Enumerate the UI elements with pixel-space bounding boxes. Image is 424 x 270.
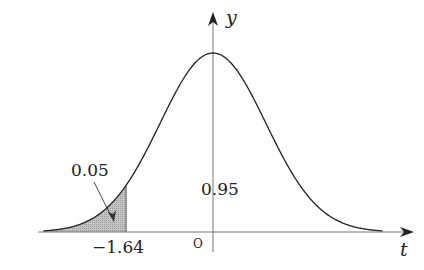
normal-distribution-chart: y t O −1.64 0.05 0.95 [0, 0, 424, 270]
origin-label: O [193, 237, 203, 251]
critical-value-label: −1.64 [92, 237, 144, 257]
body-area-label: 0.95 [201, 179, 239, 199]
tail-area-label: 0.05 [71, 160, 109, 180]
y-axis-label: y [225, 6, 237, 28]
shaded-tail-region [43, 185, 126, 232]
x-axis-label: t [400, 238, 408, 260]
